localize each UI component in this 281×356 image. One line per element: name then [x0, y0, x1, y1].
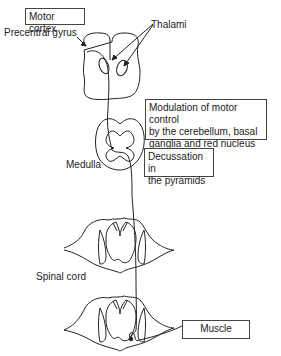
medulla-label: Medulla: [66, 159, 101, 171]
precentral-gyrus-label: Precentral gyrus: [4, 27, 77, 39]
medulla-section: [96, 110, 145, 196]
muscle-box: Muscle: [182, 320, 250, 339]
decussation-line-1: Decussation in: [148, 151, 210, 175]
spinal-cord-lower: [64, 296, 174, 351]
muscle-label: Muscle: [200, 323, 232, 334]
thalami-label: Thalami: [151, 19, 187, 31]
decussation-box: Decussation in the pyramids: [144, 148, 214, 177]
brain-section: [83, 33, 140, 110]
modulation-box: Modulation of motor control by the cereb…: [145, 99, 267, 140]
modulation-line-2: by the cerebellum, basal: [149, 126, 263, 138]
motor-neuron-axon: [129, 326, 182, 341]
modulation-line-1: Modulation of motor control: [149, 102, 263, 126]
spinal-cord-label: Spinal cord: [36, 271, 86, 283]
decussation-line-2: the pyramids: [148, 175, 210, 187]
motor-neuron-cell: [129, 337, 133, 341]
motor-pathway-diagram: [0, 0, 281, 356]
spinal-cord-upper: [64, 218, 174, 273]
motor-cortex-box: Motor cortex: [25, 8, 85, 25]
thalami-arrows: [112, 24, 153, 66]
